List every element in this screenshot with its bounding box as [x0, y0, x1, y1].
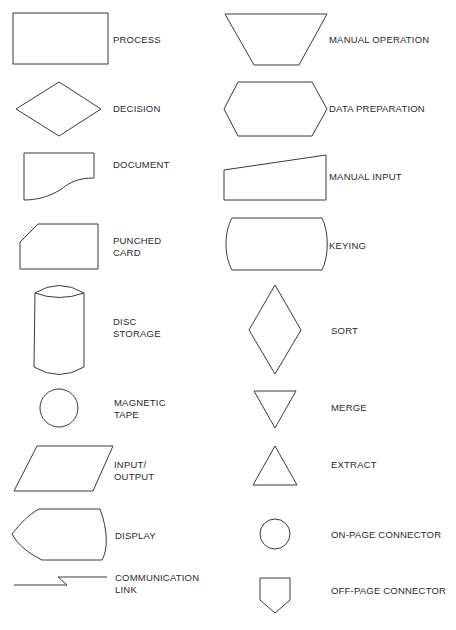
label-data-preparation: DATA PREPARATION: [329, 103, 425, 115]
label-communication-link: COMMUNICATIONLINK: [115, 572, 199, 596]
on-page-connector-symbol: [260, 519, 290, 549]
punched-card-symbol: [20, 224, 98, 269]
sort-symbol: [249, 285, 301, 374]
label-input-output: INPUT/OUTPUT: [114, 459, 154, 483]
label-document: DOCUMENT: [113, 159, 170, 171]
input-output-symbol: [14, 446, 113, 491]
label-merge: MERGE: [331, 402, 367, 414]
label-on-page-connector: ON-PAGE CONNECTOR: [331, 529, 441, 541]
data-preparation-symbol: [224, 82, 327, 136]
merge-symbol: [254, 391, 296, 428]
off-page-connector-symbol: [260, 578, 290, 613]
document-symbol: [24, 153, 94, 200]
keying-symbol: [226, 218, 327, 270]
label-keying: KEYING: [329, 240, 366, 252]
label-manual-input: MANUAL INPUT: [329, 171, 402, 183]
label-manual-operation: MANUAL OPERATION: [329, 34, 429, 46]
magnetic-tape-symbol: [40, 389, 78, 427]
label-sort: SORT: [331, 325, 358, 337]
process-symbol: [13, 13, 108, 64]
disc-storage-symbol: [34, 286, 84, 375]
display-symbol: [12, 509, 106, 560]
label-display: DISPLAY: [115, 530, 156, 542]
label-punched-card: PUNCHEDCARD: [113, 235, 161, 259]
decision-symbol: [16, 82, 101, 136]
label-extract: EXTRACT: [331, 459, 377, 471]
communication-link-symbol: [14, 577, 107, 585]
label-off-page-connector: OFF-PAGE CONNECTOR: [331, 585, 446, 597]
extract-symbol: [253, 446, 297, 485]
label-decision: DECISION: [113, 103, 161, 115]
label-process: PROCESS: [113, 34, 161, 46]
label-disc-storage: DISCSTORAGE: [113, 316, 161, 340]
label-magnetic-tape: MAGNETICTAPE: [114, 397, 166, 421]
manual-operation-symbol: [225, 14, 327, 65]
manual-input-symbol: [224, 155, 326, 200]
